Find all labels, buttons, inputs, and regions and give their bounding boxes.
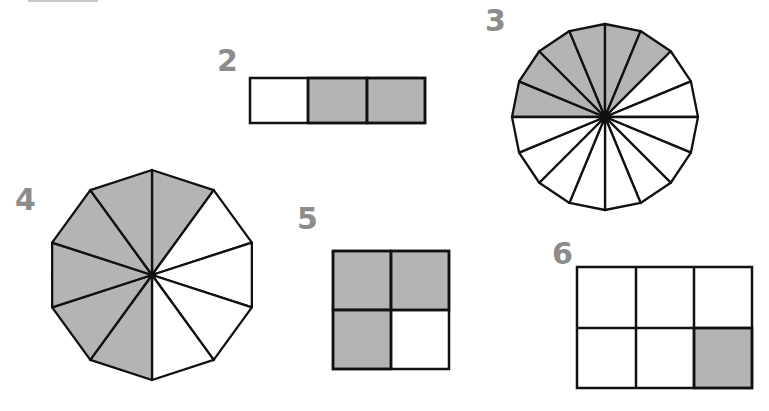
fraction-figures (0, 0, 769, 411)
strip-cell-shaded (367, 78, 425, 123)
figure-2-strip (250, 78, 425, 123)
figure-6-grid (577, 267, 752, 388)
strip-cell-shaded (308, 78, 367, 123)
figure-4-10gon (52, 170, 252, 380)
figure-5-grid (333, 251, 449, 369)
figure-3-16gon (512, 24, 698, 210)
